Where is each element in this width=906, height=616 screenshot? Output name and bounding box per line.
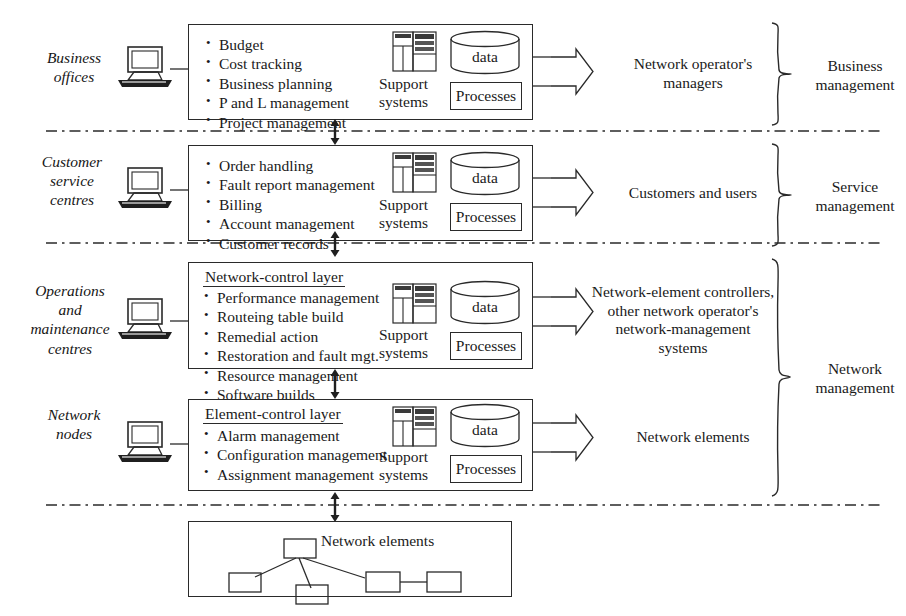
- diagram-canvas: Business offices Budget Cost tracking Bu…: [0, 0, 906, 616]
- list-item: Alarm management: [203, 426, 387, 445]
- role-label-business: Business offices: [26, 48, 122, 86]
- server-rack-icon-service: [392, 152, 438, 194]
- list-item: Routeing table build: [203, 307, 379, 326]
- computer-terminal-icon-network-nodes: [112, 419, 178, 465]
- output-label-business: Network operator's managers: [598, 55, 788, 92]
- brace-label-business-management: Business management: [800, 57, 906, 94]
- bullet-list-element-control: Alarm management Configuration managemen…: [203, 426, 387, 484]
- support-systems-caption-network-control: Support systems: [379, 326, 451, 362]
- list-item: Resource management: [203, 366, 379, 385]
- block-arrow-right-business: [533, 47, 595, 97]
- curly-brace-service-management: [768, 143, 794, 247]
- double-headed-arrow-business-service: [328, 119, 342, 145]
- layer-title-network-control: Network-control layer: [203, 268, 345, 287]
- database-cylinder-network-control: data: [449, 281, 521, 325]
- bullet-list-service: Order handling Fault report management B…: [205, 156, 375, 253]
- support-systems-caption-element-control: Support systems: [379, 448, 451, 484]
- output-label-element-control: Network elements: [598, 428, 788, 447]
- processes-box-network-control: Processes: [450, 332, 522, 360]
- brace-label-network-management: Network management: [800, 360, 906, 397]
- layer-box-service: Order handling Fault report management B…: [188, 145, 533, 241]
- list-item: Restoration and fault mgt.: [203, 346, 379, 365]
- database-label-business: data: [449, 49, 521, 65]
- processes-box-element-control: Processes: [450, 455, 522, 483]
- brace-label-service-management: Service management: [800, 178, 906, 215]
- database-cylinder-service: data: [449, 152, 521, 196]
- network-elements-topology: [199, 530, 499, 594]
- double-headed-arrow-bottom: [328, 492, 342, 522]
- bullet-list-business: Budget Cost tracking Business planning P…: [205, 35, 349, 132]
- list-item: Order handling: [205, 156, 375, 175]
- database-label-element-control: data: [449, 422, 521, 438]
- role-label-service: Customer service centres: [20, 152, 124, 210]
- list-item: Remedial action: [203, 327, 379, 346]
- block-arrow-right-element-control: [533, 413, 595, 463]
- support-systems-caption-business: Support systems: [379, 75, 451, 111]
- processes-box-service: Processes: [450, 203, 522, 231]
- computer-terminal-icon-business: [112, 44, 178, 90]
- list-item: Configuration management: [203, 445, 387, 464]
- list-item: Assignment management: [203, 465, 387, 484]
- layer-box-element-control: Element-control layer Alarm management C…: [188, 399, 533, 491]
- layer-title-element-control: Element-control layer: [203, 405, 343, 424]
- list-item: Cost tracking: [205, 54, 349, 73]
- list-item: Customer records: [205, 234, 375, 253]
- server-rack-icon-network-control: [392, 283, 438, 325]
- computer-terminal-icon-operations: [112, 296, 178, 342]
- list-item: P and L management: [205, 93, 349, 112]
- network-elements-box: Network elements: [188, 521, 512, 597]
- list-item: Account management: [205, 214, 375, 233]
- curly-brace-business-management: [768, 22, 794, 126]
- database-cylinder-business: data: [449, 31, 521, 75]
- curly-brace-network-management: [768, 258, 794, 498]
- layer-box-network-control: Network-control layer Performance manage…: [188, 262, 533, 369]
- support-systems-caption-service: Support systems: [379, 196, 451, 232]
- server-rack-icon-element-control: [392, 406, 438, 448]
- double-headed-arrow-service-network: [328, 231, 342, 257]
- database-label-service: data: [449, 170, 521, 186]
- database-label-network-control: data: [449, 299, 521, 315]
- server-rack-icon-business: [392, 31, 438, 73]
- list-item: Budget: [205, 35, 349, 54]
- processes-box-business: Processes: [450, 82, 522, 110]
- list-item: Fault report management: [205, 175, 375, 194]
- bullet-list-network-control: Performance management Routeing table bu…: [203, 288, 379, 405]
- list-item: Billing: [205, 195, 375, 214]
- role-label-network-nodes: Network nodes: [24, 405, 124, 443]
- layer-box-business: Budget Cost tracking Business planning P…: [188, 24, 533, 120]
- list-item: Performance management: [203, 288, 379, 307]
- double-headed-arrow-network-element: [328, 369, 342, 399]
- list-item: Business planning: [205, 74, 349, 93]
- block-arrow-right-service: [533, 168, 595, 218]
- computer-terminal-icon-service: [112, 165, 178, 211]
- database-cylinder-element-control: data: [449, 404, 521, 448]
- output-label-service: Customers and users: [598, 184, 788, 203]
